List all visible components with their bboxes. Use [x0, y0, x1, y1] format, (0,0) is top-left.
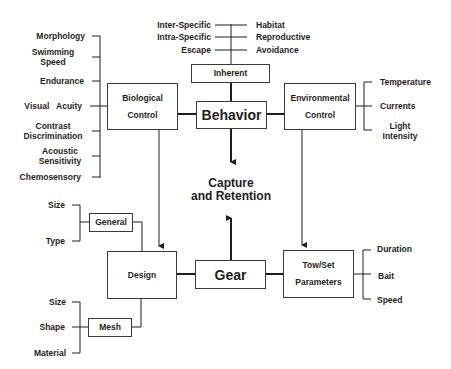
inherent-right-item-avoidance: Avoidance — [256, 45, 299, 55]
environmental-control-line2: Control — [305, 107, 335, 124]
bio-factor-contrast-line2: Discrimination — [18, 131, 88, 141]
general-box: General — [89, 213, 133, 232]
bio-factor-visual-acuity: Visual Acuity — [24, 101, 82, 111]
inherent-right-item-reproductive: Reproductive — [256, 32, 310, 42]
bio-factor-swimming-line1: Swimming — [20, 47, 86, 57]
tow-set-factor-duration: Duration — [377, 244, 412, 254]
env-factor-light-intensity: Light Intensity — [378, 121, 422, 141]
biological-control-line2: Control — [127, 107, 157, 124]
general-item-type: Type — [46, 236, 65, 246]
env-factor-temperature: Temperature — [380, 77, 431, 87]
tow-set-line1: Tow/Set — [303, 257, 335, 274]
capture-retention-diagram: Inter-Specific Intra-Specific Escape Hab… — [0, 0, 451, 369]
biological-control-line1: Biological — [122, 90, 163, 107]
gear-box: Gear — [195, 260, 266, 289]
environmental-control-line1: Environmental — [290, 90, 349, 107]
inherent-label: Inherent — [214, 65, 248, 82]
capture-retention-title: Capture and Retention — [176, 177, 286, 203]
env-factor-light-line2: Intensity — [378, 131, 422, 141]
general-item-size: Size — [48, 200, 65, 210]
bio-factor-swimming-line2: Speed — [20, 57, 86, 67]
bio-factor-contrast-line1: Contrast — [18, 121, 88, 131]
general-label: General — [95, 214, 127, 231]
design-box: Design — [107, 251, 177, 299]
bio-factor-acoustic-line2: Sensitivity — [34, 156, 86, 166]
inherent-left-item-inter-specific: Inter-Specific — [157, 20, 211, 30]
mesh-box: Mesh — [88, 318, 132, 337]
env-factor-light-line1: Light — [378, 121, 422, 131]
bio-factor-morphology: Morphology — [36, 31, 85, 41]
environmental-control-box: Environmental Control — [284, 83, 356, 130]
inherent-left-item-escape: Escape — [181, 45, 211, 55]
bio-factor-chemosensory: Chemosensory — [20, 172, 81, 182]
tow-set-factor-bait: Bait — [378, 271, 394, 281]
gear-label: Gear — [215, 267, 247, 283]
mesh-item-material: Material — [34, 348, 66, 358]
biological-control-box: Biological Control — [107, 83, 178, 130]
inherent-left-item-intra-specific: Intra-Specific — [157, 32, 211, 42]
mesh-item-size: Size — [49, 297, 66, 307]
bio-factor-swimming-speed: Swimming Speed — [20, 47, 86, 67]
design-label: Design — [128, 267, 156, 284]
bio-factor-acoustic-line1: Acoustic — [34, 146, 86, 156]
env-factor-currents: Currents — [380, 101, 415, 111]
inherent-box: Inherent — [191, 64, 270, 83]
bio-factor-endurance: Endurance — [40, 76, 84, 86]
bio-factor-contrast-discrimination: Contrast Discrimination — [18, 121, 88, 141]
behavior-box: Behavior — [196, 101, 267, 129]
bio-factor-acoustic-sensitivity: Acoustic Sensitivity — [34, 146, 86, 166]
capture-retention-line2: and Retention — [176, 190, 286, 203]
tow-set-line2: Parameters — [295, 274, 341, 291]
behavior-label: Behavior — [202, 107, 262, 123]
tow-set-parameters-box: Tow/Set Parameters — [283, 250, 354, 298]
mesh-item-shape: Shape — [39, 322, 65, 332]
inherent-right-item-habitat: Habitat — [256, 20, 285, 30]
mesh-label: Mesh — [99, 319, 121, 336]
tow-set-factor-speed: Speed — [377, 295, 403, 305]
